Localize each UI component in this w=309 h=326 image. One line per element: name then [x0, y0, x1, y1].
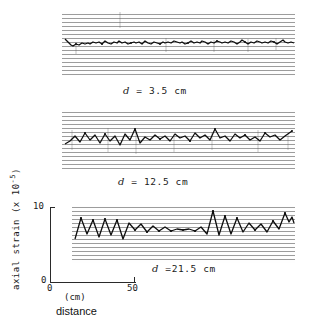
caption-d215-var: d — [152, 263, 159, 274]
x-axis-title: distance — [56, 305, 97, 317]
panel-d125 — [62, 110, 295, 169]
panel-d215-gridlines — [72, 208, 295, 260]
panel-d125-vticks — [72, 128, 288, 154]
y-axis-line — [50, 207, 51, 283]
figure-root: d = 3.5 cm — [0, 0, 309, 326]
y-axis-title-units: (x 10 — [11, 183, 21, 213]
panel-d215-canvas — [72, 206, 295, 263]
y-ticklabel-0: 0 — [41, 275, 46, 285]
caption-d125: d = 12.5 cm — [118, 176, 188, 187]
caption-d35: d = 3.5 cm — [123, 85, 187, 96]
x-ticklabel-50: 50 — [127, 283, 138, 293]
caption-d215-rest: =21.5 cm — [165, 263, 216, 274]
panel-d215-trace — [75, 211, 294, 239]
y-axis-title-main: axial strain — [11, 219, 21, 290]
x-axis-unit: (cm) — [64, 292, 86, 302]
y-axis-title: axial strain (x 10-5) — [9, 168, 21, 290]
y-ticklabel-10: 10 — [33, 201, 44, 211]
y-axis-title-close: ) — [11, 168, 21, 174]
panel-d125-canvas — [62, 110, 295, 169]
caption-d215: d =21.5 cm — [152, 263, 216, 274]
panel-d215-markers — [80, 210, 286, 233]
y-tick-10 — [50, 207, 55, 208]
caption-d35-var: d — [123, 85, 130, 96]
caption-d125-rest: = 12.5 cm — [131, 176, 188, 187]
panel-d215 — [72, 206, 295, 263]
panel-d35-canvas — [62, 12, 295, 76]
caption-d125-var: d — [118, 176, 125, 187]
panel-d35-gridlines — [62, 15, 295, 75]
panel-d35 — [62, 12, 295, 76]
x-ticklabel-0: 0 — [47, 283, 52, 293]
y-axis-title-exponent: -5 — [9, 174, 17, 183]
caption-d35-rest: = 3.5 cm — [136, 85, 187, 96]
panel-d35-trace — [65, 39, 294, 46]
x-axis-line — [50, 282, 136, 283]
